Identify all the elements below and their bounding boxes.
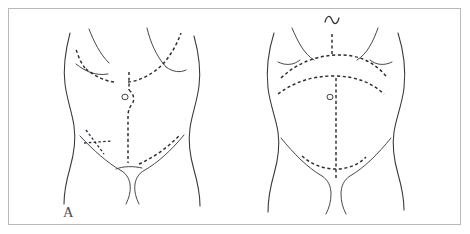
umbilicus [122, 94, 128, 100]
left-inguinal-crease [281, 138, 331, 214]
right-torso-contour [189, 36, 200, 206]
right-inguinal-crease [341, 138, 391, 214]
pubic-line [116, 167, 142, 169]
panel-b: B [226, 8, 461, 225]
panel-a-drawing [8, 8, 243, 225]
left-subcostal-incision [85, 68, 114, 82]
right-costal-margin-lower [166, 67, 186, 72]
right-costal-margin [147, 28, 166, 67]
panel-a: A [8, 8, 243, 225]
xiphoid-marker [325, 16, 339, 23]
umbilicus [327, 94, 333, 99]
midline-incision-umbilical-detour [128, 90, 134, 116]
panel-label-a: A [63, 204, 74, 221]
left-torso-contour [64, 33, 75, 204]
figure-root: A [0, 0, 470, 234]
left-costal-margin [292, 28, 314, 60]
left-costal-margin-upper [89, 29, 109, 63]
left-costal-margin-lower [278, 60, 300, 64]
right-costal-margin [357, 28, 378, 60]
right-inguinal-crease [135, 135, 184, 204]
transverse-muscle-splitting-incision [84, 141, 112, 143]
pfannenstiel-incision [302, 156, 366, 169]
upper-chevron-rooftop-incision [281, 55, 386, 78]
right-torso-contour [393, 33, 405, 210]
upper-transverse-incision [278, 76, 384, 94]
right-subcostal-incision [128, 33, 181, 82]
left-torso-contour [267, 33, 279, 212]
panel-b-drawing [226, 8, 461, 225]
left-inguinal-crease [80, 136, 130, 204]
